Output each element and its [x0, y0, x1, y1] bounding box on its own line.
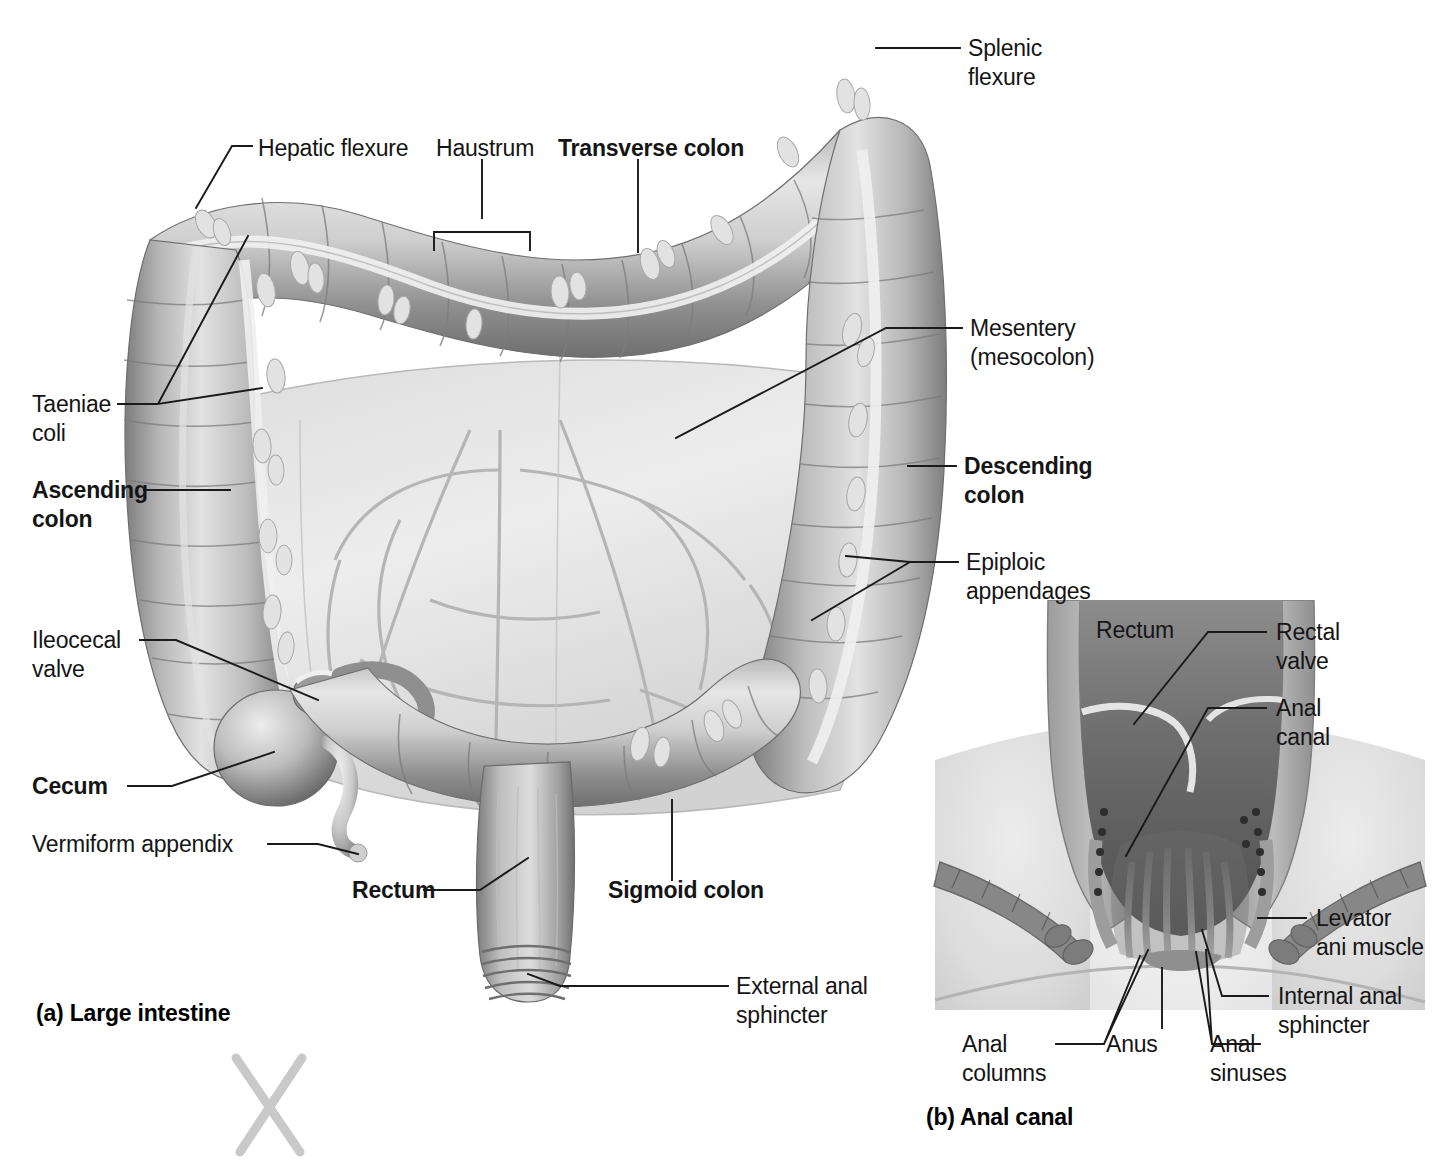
label-transverse-colon: Transverse colon — [558, 134, 744, 163]
label-b-rectum: Rectum — [1096, 616, 1174, 645]
label-levator-ani-muscle: Levator ani muscle — [1316, 904, 1424, 962]
label-ascending-colon: Ascending colon — [32, 476, 148, 534]
caption-panel-a: (a) Large intestine — [36, 1000, 230, 1027]
label-mesentery: Mesentery (mesocolon) — [970, 314, 1094, 372]
label-epiploic-appendages: Epiploic appendages — [966, 548, 1091, 606]
label-anus: Anus — [1106, 1030, 1158, 1059]
label-anal-canal: Anal canal — [1276, 694, 1330, 752]
anatomy-figure: Hepatic flexure Haustrum Transverse colo… — [0, 0, 1448, 1166]
stray-x-mark — [236, 1058, 302, 1152]
label-splenic-flexure: Splenic flexure — [968, 34, 1042, 92]
label-ileocecal-valve: Ileocecal valve — [32, 626, 121, 684]
label-rectum: Rectum — [352, 876, 435, 905]
label-anal-columns: Anal columns — [962, 1030, 1046, 1088]
label-rectal-valve: Rectal valve — [1276, 618, 1340, 676]
label-vermiform-appendix: Vermiform appendix — [32, 830, 233, 859]
large-intestine-illustration — [124, 78, 946, 1002]
label-haustrum: Haustrum — [436, 134, 534, 163]
anal-canal-lumen — [1111, 831, 1249, 965]
caption-panel-b: (b) Anal canal — [926, 1104, 1073, 1131]
leader-hepatic-flexure — [196, 146, 252, 208]
label-cecum: Cecum — [32, 772, 108, 801]
label-hepatic-flexure: Hepatic flexure — [258, 134, 408, 163]
label-external-anal-sphincter: External anal sphincter — [736, 972, 868, 1030]
label-sigmoid-colon: Sigmoid colon — [608, 876, 764, 905]
label-taeniae-coli: Taeniae coli — [32, 390, 111, 448]
label-descending-colon: Descending colon — [964, 452, 1092, 510]
label-internal-anal-sphincter: Internal anal sphincter — [1278, 982, 1402, 1040]
figure-artwork — [0, 0, 1448, 1166]
leader-haustrum — [434, 160, 530, 250]
label-anal-sinuses: Anal sinuses — [1210, 1030, 1287, 1088]
